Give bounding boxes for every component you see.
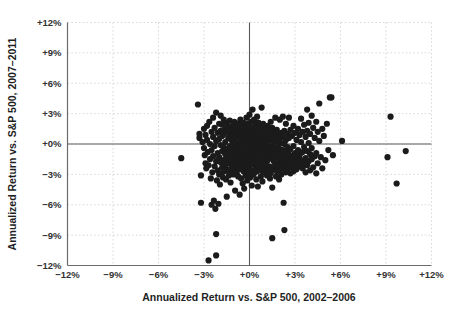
scatter-point (217, 181, 223, 187)
scatter-point (298, 116, 304, 122)
scatter-point (330, 152, 336, 158)
x-axis-tick-labels: −12%−9%−6%−3%+0%+3%+6%+9%+12% (55, 269, 444, 280)
scatter-point (259, 104, 265, 110)
scatter-point (316, 138, 322, 144)
scatter-point (213, 252, 219, 258)
scatter-point (286, 115, 292, 121)
scatter-point (215, 201, 221, 207)
scatter-point (394, 180, 400, 186)
scatter-point (321, 133, 327, 139)
scatter-point (322, 157, 328, 163)
scatter-point (213, 231, 219, 237)
x-tick-label: +9% (376, 269, 396, 280)
scatter-point (227, 179, 233, 185)
scatter-point (241, 185, 247, 191)
scatter-point (198, 200, 204, 206)
scatter-point (309, 145, 315, 151)
x-tick-label: −3% (194, 269, 214, 280)
x-tick-label: −6% (149, 269, 169, 280)
scatter-point (195, 101, 201, 107)
scatter-point (281, 200, 287, 206)
scatter-point (384, 154, 390, 160)
scatter-point (325, 147, 331, 153)
y-tick-label: +12% (37, 17, 62, 28)
scatter-point (319, 126, 325, 132)
scatter-point (403, 148, 409, 154)
y-tick-label: +6% (42, 78, 62, 89)
scatter-point (309, 113, 315, 119)
scatter-point (319, 165, 325, 171)
y-tick-label: +3% (42, 108, 62, 119)
y-tick-label: −12% (37, 260, 62, 271)
y-tick-label: +0% (42, 138, 62, 149)
scatter-point (224, 194, 230, 200)
x-tick-label: −9% (103, 269, 123, 280)
x-tick-label: +3% (285, 269, 305, 280)
scatter-point (283, 121, 289, 127)
scatter-point (315, 160, 321, 166)
scatter-point (280, 114, 286, 120)
y-tick-label: −3% (42, 169, 62, 180)
scatter-point (259, 178, 265, 184)
y-tick-label: +9% (42, 47, 62, 58)
scatter-point (209, 169, 215, 175)
scatter-point (281, 227, 287, 233)
scatter-point (249, 106, 255, 112)
chart-canvas: −12%−9%−6%−3%+0%+3%+6%+9%+12% −12%−9%−6%… (0, 0, 461, 310)
scatter-point (237, 192, 243, 198)
y-tick-label: −6% (42, 199, 62, 210)
scatter-point (313, 119, 319, 125)
scatter-point (269, 184, 275, 190)
scatter-point (304, 106, 310, 112)
y-axis-tick-labels: −12%−9%−6%−3%+0%+3%+6%+9%+12% (37, 17, 62, 271)
scatter-point (324, 121, 330, 127)
scatter-point (198, 172, 204, 178)
scatter-point (316, 100, 322, 106)
scatter-point (269, 235, 275, 241)
x-tick-label: +6% (331, 269, 351, 280)
scatter-point (205, 162, 211, 168)
x-tick-label: +12% (419, 269, 444, 280)
scatter-point (205, 257, 211, 263)
scatter-point (328, 94, 334, 100)
scatter-point (313, 170, 319, 176)
scatter-point (339, 138, 345, 144)
scatter-chart-figure: −12%−9%−6%−3%+0%+3%+6%+9%+12% −12%−9%−6%… (0, 0, 461, 310)
scatter-point (178, 155, 184, 161)
y-axis-title: Annualized Return vs. S&P 500, 2007–2011 (6, 37, 18, 250)
y-tick-label: −9% (42, 230, 62, 241)
x-tick-label: +0% (240, 269, 260, 280)
scatter-point (255, 183, 261, 189)
scatter-point (254, 114, 260, 120)
scatter-point (387, 114, 393, 120)
scatter-point (249, 182, 255, 188)
scatter-points (178, 94, 409, 263)
scatter-point (208, 175, 214, 181)
scatter-point (306, 120, 312, 126)
x-axis-title: Annualized Return vs. S&P 500, 2002–2006 (142, 291, 356, 303)
